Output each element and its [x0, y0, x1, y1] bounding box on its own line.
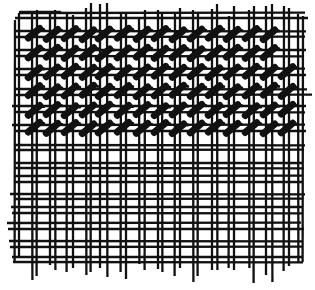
- needlepoint-canvas-illustration: Needlepoint canvas with tent stitches: [0, 0, 315, 290]
